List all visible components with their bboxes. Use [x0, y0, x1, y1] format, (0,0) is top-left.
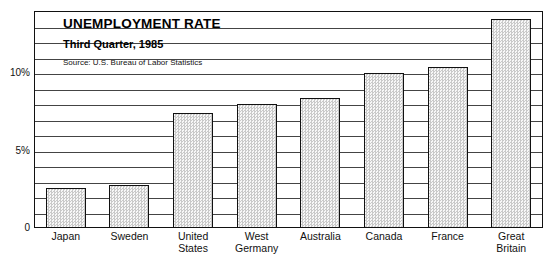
y-axis: 05%10%: [0, 0, 34, 263]
bar: [428, 67, 468, 228]
x-axis-tick-label: United States: [161, 230, 225, 254]
y-axis-tick-label: 0: [24, 223, 30, 233]
x-axis-tick-label: Great Britain: [479, 230, 543, 254]
bar: [491, 19, 531, 228]
bar: [364, 73, 404, 228]
x-axis: JapanSwedenUnited StatesWest GermanyAust…: [34, 230, 543, 263]
unemployment-rate-chart: 05%10% JapanSwedenUnited StatesWest Germ…: [0, 0, 555, 263]
title-block: UNEMPLOYMENT RATE Third Quarter, 1985 So…: [63, 16, 221, 68]
bar: [46, 188, 86, 228]
x-axis-tick-label: France: [416, 230, 480, 242]
bar: [300, 98, 340, 228]
x-axis-tick-label: Sweden: [98, 230, 162, 242]
x-axis-tick-label: West Germany: [225, 230, 289, 254]
x-axis-tick-label: Japan: [34, 230, 98, 242]
bar: [173, 113, 213, 228]
y-axis-tick-label: 5%: [16, 146, 30, 156]
x-axis-tick-label: Australia: [289, 230, 353, 242]
bar: [109, 185, 149, 228]
page-title: UNEMPLOYMENT RATE: [63, 16, 221, 31]
x-axis-tick-label: Canada: [352, 230, 416, 242]
bar: [237, 104, 277, 228]
y-axis-tick-label: 10%: [10, 68, 30, 78]
chart-source: Source: U.S. Bureau of Labor Statistics: [63, 58, 221, 68]
chart-subtitle: Third Quarter, 1985: [63, 38, 221, 51]
